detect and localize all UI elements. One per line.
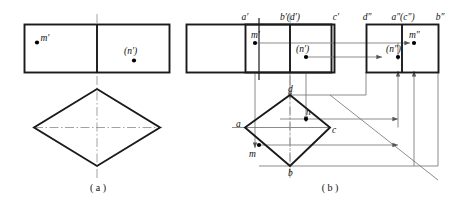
panel-b-point-m-prime-marker (253, 41, 257, 45)
panel-b-point-n-top-marker (304, 117, 308, 121)
panel-b-caption: ( b ) (322, 182, 339, 194)
panel-a-point-m-label: m′ (41, 33, 51, 43)
label-b-top: b (288, 168, 293, 178)
panel-b-point-n-double-prime-label: (n″) (386, 44, 401, 55)
figure-background (0, 0, 453, 203)
label-d-top: d (288, 84, 293, 94)
technical-drawing-figure: m′ (n′) ( a ) (0, 0, 453, 203)
panel-a-point-n-marker (132, 58, 136, 62)
panel-b-point-n-prime-label: (n′) (296, 44, 309, 55)
label-d-double-prime: d″ (363, 12, 373, 22)
label-a-c-double-prime: a″(c″) (391, 12, 414, 23)
panel-b-point-m-prime-label: m′ (251, 30, 261, 40)
panel-a-point-n-label: (n′) (124, 46, 137, 57)
label-c-prime: c′ (333, 12, 340, 22)
panel-b-point-n-double-prime-marker (396, 55, 400, 59)
panel-a-point-m-marker (35, 40, 39, 44)
panel-b-point-m-top-marker (257, 143, 261, 147)
panel-b-point-m-top-label: m (249, 149, 256, 159)
panel-a-caption: ( a ) (90, 182, 106, 194)
panel-b-point-m-double-prime-marker (412, 41, 416, 45)
label-b-double-prime: b″ (436, 12, 446, 22)
label-a-prime: a′ (242, 12, 250, 22)
panel-b-point-n-top-label: n (306, 107, 311, 117)
figure-canvas: m′ (n′) ( a ) (0, 0, 453, 203)
panel-b-point-m-double-prime-label: m″ (409, 30, 421, 40)
panel-b-point-n-prime-marker (304, 55, 308, 59)
label-a-top: a (236, 119, 241, 129)
label-b-prime-d-prime: b′(d′) (280, 12, 300, 23)
